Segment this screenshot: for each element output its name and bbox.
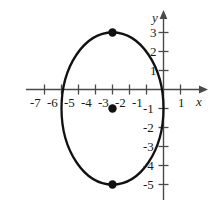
- ellipse-graph-figure: -7 -6 -5 -4 -3 -2 -1 1 3 2 1 -1 -2 -3 -4…: [0, 0, 216, 216]
- x-tick-label-1: 1: [178, 96, 185, 109]
- point-bottom-vertex: [108, 180, 116, 188]
- y-tick-label--1: -1: [143, 102, 154, 115]
- y-tick-label--5: -5: [143, 178, 154, 191]
- y-tick-label-3: 3: [150, 26, 157, 39]
- y-axis-arrow: [160, 10, 168, 19]
- x-tick-label--2: -2: [115, 96, 126, 109]
- point-top-vertex: [108, 28, 116, 36]
- y-tick-label-2: 2: [150, 45, 157, 58]
- x-tick-label--4: -4: [81, 96, 92, 109]
- y-axis-label: y: [152, 11, 158, 24]
- x-tick-label--5: -5: [64, 96, 75, 109]
- y-tick-label--2: -2: [143, 121, 154, 134]
- x-tick-label--1: -1: [132, 96, 143, 109]
- x-axis-arrow: [199, 86, 208, 94]
- x-tick-label--7: -7: [30, 96, 41, 109]
- y-tick-label--3: -3: [143, 140, 154, 153]
- x-tick-label--3: -3: [98, 96, 109, 109]
- y-tick-label-1: 1: [150, 64, 157, 77]
- x-axis-label: x: [196, 95, 202, 108]
- y-tick-label--4: -4: [143, 159, 154, 172]
- x-tick-label--6: -6: [47, 96, 58, 109]
